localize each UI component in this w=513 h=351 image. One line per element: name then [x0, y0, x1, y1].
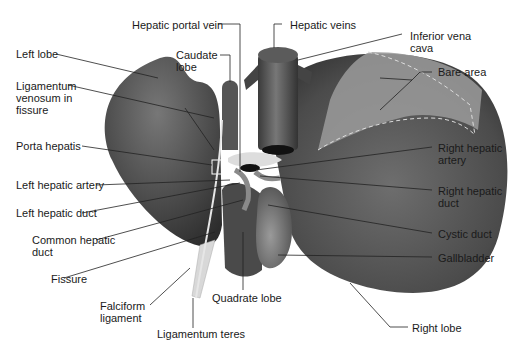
- label-common-hepatic-duct: Common hepatic duct: [32, 234, 115, 258]
- label-inferior-vena-cava: Inferior vena cava: [410, 30, 471, 54]
- label-ligamentum-teres: Ligamentum teres: [157, 328, 245, 340]
- label-right-hepatic-duct: Right hepatic duct: [438, 185, 502, 209]
- label-hepatic-portal-vein: Hepatic portal vein: [132, 19, 223, 31]
- label-right-hepatic-artery: Right hepatic artery: [438, 142, 502, 166]
- label-fissure: Fissure: [51, 273, 87, 285]
- label-left-hepatic-duct: Left hepatic duct: [16, 207, 97, 219]
- label-left-hepatic-artery: Left hepatic artery: [16, 179, 104, 191]
- label-porta-hepatis: Porta hepatis: [16, 140, 81, 152]
- label-gallbladder: Gallbladder: [438, 252, 494, 264]
- label-quadrate-lobe: Quadrate lobe: [212, 292, 282, 304]
- falciform-ligament-shape: [192, 240, 215, 298]
- quadrate-lobe-shape: [222, 183, 262, 277]
- label-ligamentum-venosum: Ligamentum venosum in fissure: [16, 80, 77, 116]
- inferior-vena-cava-shape: [258, 55, 298, 150]
- label-bare-area: Bare area: [438, 66, 486, 78]
- label-caudate-lobe: Caudate lobe: [176, 49, 218, 73]
- label-falciform-ligament: Falciform ligament: [100, 300, 145, 324]
- label-right-lobe: Right lobe: [412, 322, 462, 334]
- caudate-lobe-shape: [222, 81, 238, 151]
- label-left-lobe: Left lobe: [16, 48, 58, 60]
- left-lobe-shape: [105, 57, 222, 247]
- label-cystic-duct: Cystic duct: [438, 228, 492, 240]
- label-hepatic-veins: Hepatic veins: [290, 19, 356, 31]
